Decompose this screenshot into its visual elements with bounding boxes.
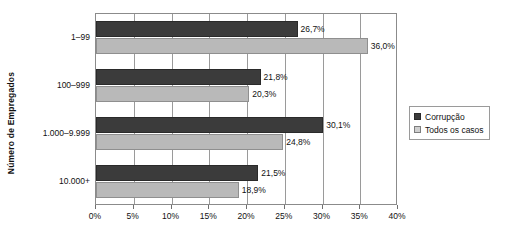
bar-value-label: 21,5% <box>261 165 285 181</box>
bar-dark[interactable] <box>96 117 323 133</box>
legend-label: Todos os casos <box>425 125 484 135</box>
x-axis-tick <box>397 205 398 209</box>
x-axis-tick-label: 10% <box>162 211 179 221</box>
bar-value-label: 26,7% <box>301 21 325 37</box>
category-axis: 1–99100–9991.000–9.99910.000+ <box>20 13 93 205</box>
x-axis-tick-label: 40% <box>388 211 405 221</box>
y-axis-title-text: Número de Empregados <box>6 71 16 173</box>
x-axis-tick <box>246 205 247 209</box>
bar-light[interactable] <box>96 86 249 102</box>
bar-group: 26,7%36,0% <box>96 14 396 62</box>
y-axis-title: Número de Empregados <box>2 0 20 245</box>
category-label: 1.000–9.999 <box>43 109 90 157</box>
x-axis-tick <box>322 205 323 209</box>
bar-group: 30,1%24,8% <box>96 110 396 158</box>
x-axis: 0%5%10%15%20%25%30%35%40% <box>95 205 397 231</box>
x-axis-tick-label: 20% <box>237 211 254 221</box>
x-axis-tick <box>171 205 172 209</box>
legend-label: Corrupção <box>425 112 465 122</box>
legend-swatch-light-icon <box>414 126 421 133</box>
bar-dark[interactable] <box>96 69 261 85</box>
x-axis-tick <box>284 205 285 209</box>
bar-group: 21,8%20,3% <box>96 62 396 110</box>
legend-swatch-dark-icon <box>414 113 421 120</box>
bar-dark[interactable] <box>96 21 298 37</box>
plot-area: 26,7%36,0%21,8%20,3%30,1%24,8%21,5%18,9% <box>95 13 397 205</box>
legend-item[interactable]: Corrupção <box>414 110 484 123</box>
x-axis-tick-label: 30% <box>313 211 330 221</box>
x-axis-tick <box>359 205 360 209</box>
bar-value-label: 20,3% <box>252 86 276 102</box>
bar-group: 21,5%18,9% <box>96 158 396 206</box>
bar-value-label: 18,9% <box>242 182 266 198</box>
bar-value-label: 30,1% <box>326 117 350 133</box>
category-label: 10.000+ <box>59 157 90 205</box>
x-axis-tick <box>133 205 134 209</box>
bar-light[interactable] <box>96 134 283 150</box>
bar-light[interactable] <box>96 182 239 198</box>
category-label: 1–99 <box>71 13 90 61</box>
x-axis-tick-label: 5% <box>127 211 139 221</box>
x-axis-tick <box>95 205 96 209</box>
bar-value-label: 24,8% <box>286 134 310 150</box>
x-axis-tick-label: 25% <box>275 211 292 221</box>
x-axis-tick-label: 15% <box>200 211 217 221</box>
x-axis-tick-label: 0% <box>89 211 101 221</box>
bar-dark[interactable] <box>96 165 258 181</box>
bar-light[interactable] <box>96 38 368 54</box>
x-axis-tick-label: 35% <box>351 211 368 221</box>
bar-value-label: 36,0% <box>371 38 395 54</box>
chart-legend: CorrupçãoTodos os casos <box>409 106 490 140</box>
category-label: 100–999 <box>57 61 90 109</box>
bar-value-label: 21,8% <box>264 69 288 85</box>
legend-item[interactable]: Todos os casos <box>414 123 484 136</box>
x-axis-tick <box>208 205 209 209</box>
